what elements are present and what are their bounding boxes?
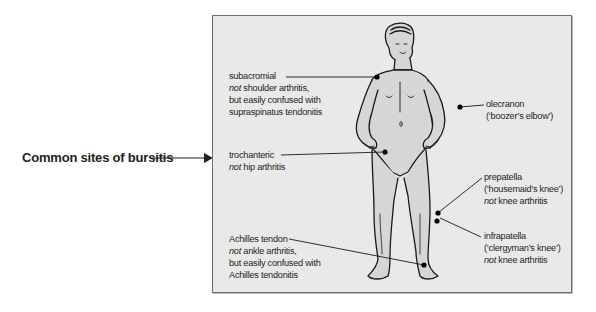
annotation-infrapatella: infrapatella (‘clergyman’s knee’) not kn… xyxy=(484,230,561,266)
site-name: subacromial xyxy=(229,70,322,82)
prepatella-dot xyxy=(435,210,440,215)
annotation-olecranon: olecranon (‘boozer’s elbow’) xyxy=(486,98,553,122)
site-name: prepatella xyxy=(484,171,563,183)
annotation-achilles: Achilles tendon not ankle arthritis, but… xyxy=(229,233,321,281)
trochanteric-dot xyxy=(382,149,387,154)
achilles-dot xyxy=(421,262,426,267)
annotation-trochanteric: trochanteric not hip arthritis xyxy=(229,149,285,173)
annotation-prepatella: prepatella (‘housemaid’s knee’) not knee… xyxy=(484,171,563,207)
subacromial-dot xyxy=(374,74,379,79)
site-name: trochanteric xyxy=(229,149,285,161)
site-name: Achilles tendon xyxy=(229,233,321,245)
site-name: olecranon xyxy=(486,98,553,110)
annotation-subacromial: subacromial not shoulder arthritis, but … xyxy=(229,70,322,118)
site-name: infrapatella xyxy=(484,230,561,242)
infrapatella-dot xyxy=(434,218,439,223)
body-outline xyxy=(356,23,444,279)
olecranon-dot xyxy=(457,104,462,109)
